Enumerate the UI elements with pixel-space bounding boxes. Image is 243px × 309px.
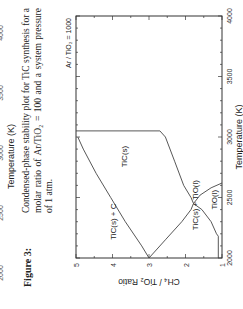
x-tick-label: 2000 xyxy=(226,250,233,266)
region-label: TiC(s) + TiO(l) xyxy=(191,180,200,230)
x-tick-label: 3500 xyxy=(226,69,233,85)
y-tick-label: 1 xyxy=(219,263,226,267)
y-tick-label: 3 xyxy=(146,263,153,267)
y-tick-label: 4 xyxy=(110,263,117,267)
phase-boundary-curve xyxy=(76,131,194,204)
x-tick-label: 4000 xyxy=(226,8,233,24)
y-tick-label: 2 xyxy=(183,263,190,267)
y-tick-label: 5 xyxy=(73,263,80,267)
y-axis-label: CH₄ / TiO₂ Ratio xyxy=(118,277,180,287)
rotated-page: 2000 2500 3000 3500 4000 Temperature (K)… xyxy=(0,0,243,309)
stability-plot: 20002500300035004000Temperature (K)12345… xyxy=(0,0,243,309)
x-tick-label: 3000 xyxy=(226,129,233,145)
phase-boundary-curve xyxy=(149,204,218,259)
region-label: TiO(l) xyxy=(210,190,219,210)
region-label: TiC(s) xyxy=(120,145,129,167)
x-tick-label: 2500 xyxy=(226,190,233,206)
annotation-label: Ar / TiO₂ = 1000 xyxy=(65,18,72,68)
x-axis-label: Temperature (K) xyxy=(234,104,243,169)
region-label: TiC(s) + C xyxy=(109,203,118,240)
